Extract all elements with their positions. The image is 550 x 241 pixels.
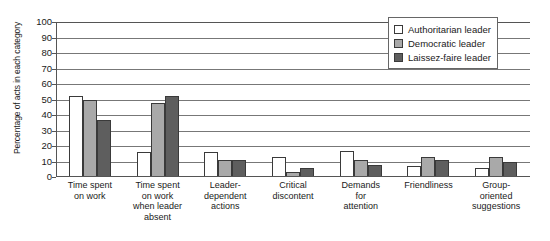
- bar-chart: Percentage of acts in each category 0102…: [0, 0, 550, 241]
- y-axis-tick-label: 30: [41, 126, 52, 136]
- y-axis-tick-label: 60: [41, 79, 52, 89]
- legend-item: Democratic leader: [394, 36, 491, 50]
- category-label-line: absent: [118, 212, 198, 223]
- y-axis-tick-label: 40: [41, 110, 52, 120]
- x-axis-category-labels: Time spenton workTime spenton workwhen l…: [56, 180, 530, 240]
- legend-swatch: [394, 25, 403, 34]
- legend-item: Authoritarian leader: [394, 22, 491, 36]
- legend: Authoritarian leaderDemocratic leaderLai…: [388, 17, 498, 69]
- y-axis-tick-label: 100: [36, 17, 52, 27]
- y-axis-tick-label: 50: [41, 95, 52, 105]
- category-label-line: for: [321, 191, 401, 202]
- category-label-line: Group-: [456, 180, 536, 191]
- x-axis-category-label: Group-orientedsuggestions: [456, 180, 536, 212]
- legend-label: Laissez-faire leader: [408, 52, 491, 63]
- legend-swatch: [394, 53, 403, 62]
- y-axis-title: Percentage of acts in each category: [12, 8, 22, 168]
- legend-label: Authoritarian leader: [408, 24, 491, 35]
- y-axis-tick-labels: 0102030405060708090100: [28, 0, 52, 241]
- y-axis-tick-label: 20: [41, 141, 52, 151]
- legend-item: Laissez-faire leader: [394, 50, 491, 64]
- category-label-line: suggestions: [456, 201, 536, 212]
- legend-swatch: [394, 39, 403, 48]
- y-axis-tick-label: 10: [41, 157, 52, 167]
- y-axis-tick-label: 80: [41, 48, 52, 58]
- category-label-line: attention: [321, 201, 401, 212]
- y-axis-tickmark: [52, 177, 56, 178]
- legend-label: Democratic leader: [408, 38, 485, 49]
- y-axis-tick-label: 70: [41, 64, 52, 74]
- category-label-line: oriented: [456, 191, 536, 202]
- category-label-line: actions: [185, 201, 265, 212]
- y-axis-tick-label: 90: [41, 33, 52, 43]
